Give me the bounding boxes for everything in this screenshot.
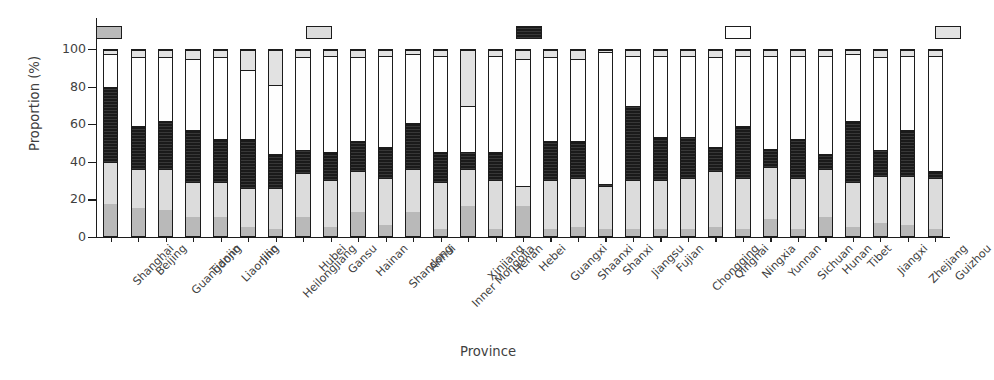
bar-segment	[571, 178, 584, 226]
bar-segment	[269, 188, 282, 229]
bar-column[interactable]	[653, 49, 668, 237]
bar-column[interactable]	[818, 49, 833, 237]
stacked-bar[interactable]	[268, 49, 283, 237]
bar-segment	[571, 141, 584, 178]
bar-segment	[132, 208, 145, 236]
bar-segment	[654, 137, 667, 180]
stacked-bar[interactable]	[625, 49, 640, 237]
bar-segment	[241, 227, 254, 236]
legend-item[interactable]	[935, 26, 968, 39]
bar-column[interactable]	[680, 49, 695, 237]
stacked-bar[interactable]	[680, 49, 695, 237]
bar-segment	[901, 176, 914, 224]
bar-column[interactable]	[900, 49, 915, 237]
bar-column[interactable]	[735, 49, 750, 237]
stacked-bar[interactable]	[845, 49, 860, 237]
stacked-bar[interactable]	[928, 49, 943, 237]
stacked-bar[interactable]	[818, 49, 833, 237]
bar-column[interactable]	[185, 49, 200, 237]
bar-segment	[351, 57, 364, 141]
bar-column[interactable]	[873, 49, 888, 237]
bar-segment	[709, 171, 722, 227]
bar-column[interactable]	[570, 49, 585, 237]
bar-column[interactable]	[295, 49, 310, 237]
bar-segment	[159, 210, 172, 236]
bar-column[interactable]	[268, 49, 283, 237]
stacked-bar[interactable]	[213, 49, 228, 237]
bar-segment	[269, 50, 282, 85]
bar-column[interactable]	[405, 49, 420, 237]
stacked-bar[interactable]	[405, 49, 420, 237]
stacked-bar[interactable]	[763, 49, 778, 237]
stacked-bar[interactable]	[598, 49, 613, 237]
bar-column[interactable]	[131, 49, 146, 237]
stacked-bar[interactable]	[131, 49, 146, 237]
stacked-bar[interactable]	[460, 49, 475, 237]
stacked-bar[interactable]	[543, 49, 558, 237]
y-axis-label: Proportion (%)	[27, 24, 42, 184]
plot-area	[97, 49, 949, 237]
stacked-bar[interactable]	[103, 49, 118, 237]
bar-segment	[186, 217, 199, 236]
bar-segment	[901, 225, 914, 236]
bar-segment	[186, 130, 199, 182]
bar-column[interactable]	[515, 49, 530, 237]
legend-item[interactable]	[516, 26, 549, 39]
bar-column[interactable]	[708, 49, 723, 237]
bar-column[interactable]	[460, 49, 475, 237]
bar-segment	[406, 169, 419, 212]
stacked-bar[interactable]	[515, 49, 530, 237]
bar-column[interactable]	[625, 49, 640, 237]
bar-column[interactable]	[323, 49, 338, 237]
bar-segment	[406, 123, 419, 170]
stacked-bar[interactable]	[708, 49, 723, 237]
stacked-bar[interactable]	[240, 49, 255, 237]
bar-column[interactable]	[350, 49, 365, 237]
stacked-bar[interactable]	[350, 49, 365, 237]
bar-column[interactable]	[763, 49, 778, 237]
bar-segment	[544, 229, 557, 236]
bar-column[interactable]	[790, 49, 805, 237]
bar-segment	[434, 182, 447, 229]
bar-column[interactable]	[433, 49, 448, 237]
bar-column[interactable]	[103, 49, 118, 237]
bar-segment	[132, 50, 145, 57]
stacked-bar[interactable]	[185, 49, 200, 237]
bar-segment	[186, 182, 199, 217]
stacked-bar[interactable]	[378, 49, 393, 237]
stacked-bar[interactable]	[653, 49, 668, 237]
bar-column[interactable]	[543, 49, 558, 237]
bar-segment	[764, 56, 777, 149]
stacked-bar[interactable]	[570, 49, 585, 237]
legend-item[interactable]	[725, 26, 758, 39]
bar-segment	[599, 184, 612, 186]
stacked-bar[interactable]	[873, 49, 888, 237]
bar-segment	[104, 87, 117, 161]
bar-segment	[324, 227, 337, 236]
bar-column[interactable]	[598, 49, 613, 237]
bar-column[interactable]	[928, 49, 943, 237]
bar-segment	[681, 137, 694, 178]
stacked-bar[interactable]	[790, 49, 805, 237]
bar-segment	[654, 50, 667, 56]
legend-item[interactable]	[96, 26, 129, 39]
stacked-bar[interactable]	[323, 49, 338, 237]
bar-column[interactable]	[240, 49, 255, 237]
bar-column[interactable]	[378, 49, 393, 237]
x-tick-label: Anhui	[426, 242, 458, 274]
stacked-bar[interactable]	[158, 49, 173, 237]
stacked-bar[interactable]	[900, 49, 915, 237]
stacked-bar[interactable]	[488, 49, 503, 237]
bar-column[interactable]	[213, 49, 228, 237]
bar-segment	[489, 229, 502, 236]
bar-column[interactable]	[845, 49, 860, 237]
stacked-bar[interactable]	[295, 49, 310, 237]
stacked-bar[interactable]	[735, 49, 750, 237]
bar-segment	[709, 227, 722, 236]
bar-column[interactable]	[488, 49, 503, 237]
bar-segment	[434, 229, 447, 236]
legend-item[interactable]	[306, 26, 339, 39]
bar-segment	[489, 50, 502, 56]
stacked-bar[interactable]	[433, 49, 448, 237]
bar-column[interactable]	[158, 49, 173, 237]
